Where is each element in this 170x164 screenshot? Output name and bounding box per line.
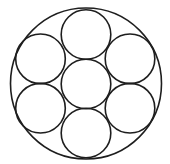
- inner-circle-bottom: [61, 108, 111, 158]
- inner-circle-upper-right: [105, 34, 155, 84]
- diagram-canvas: [0, 0, 170, 164]
- inner-circle-upper-left: [16, 34, 66, 84]
- inner-circle-lower-right: [105, 83, 155, 133]
- inner-circle-center: [61, 59, 111, 109]
- inner-circle-top: [61, 10, 111, 60]
- inner-circle-lower-left: [16, 83, 66, 133]
- circle-packing-diagram: [0, 0, 170, 164]
- outer-circle: [11, 8, 162, 159]
